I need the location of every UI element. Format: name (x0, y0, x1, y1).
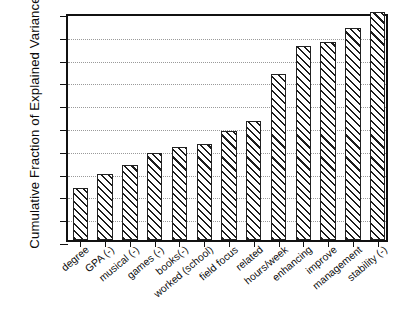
bar (221, 131, 236, 240)
bar-column (197, 12, 212, 240)
bar (197, 144, 212, 240)
x-axis-tick-labels: degreeGPA (-)musical (-)games (-)books(-… (66, 244, 388, 324)
bar (271, 74, 286, 240)
bar (370, 12, 385, 240)
y-axis-tick (60, 153, 68, 154)
bar-column (147, 12, 162, 240)
bar-column (271, 12, 286, 240)
plot-area: 0.00.10.20.30.40.50.60.70.80.91.0 (66, 14, 388, 242)
bar (97, 174, 112, 240)
bar-column (246, 12, 261, 240)
bar (296, 46, 311, 240)
bar (345, 28, 360, 240)
bar-series (68, 16, 386, 240)
y-axis-tick (60, 176, 68, 177)
y-axis-tick (60, 16, 68, 17)
bar (246, 121, 261, 240)
y-axis-tick (60, 221, 68, 222)
bar-column (320, 12, 335, 240)
y-axis-tick (60, 198, 68, 199)
y-axis-title: Cumulative Fraction of Explained Varianc… (27, 0, 42, 253)
bar-column (122, 12, 137, 240)
bar (122, 165, 137, 240)
bar-column (73, 12, 88, 240)
bar-column (296, 12, 311, 240)
y-axis-tick (60, 84, 68, 85)
bar (320, 42, 335, 240)
bar-chart-figure: Cumulative Fraction of Explained Varianc… (0, 0, 401, 326)
bar (172, 147, 187, 240)
bar-column (345, 12, 360, 240)
y-axis-tick (60, 62, 68, 63)
y-axis-tick (60, 130, 68, 131)
bar (147, 153, 162, 240)
bar-column (221, 12, 236, 240)
bar (73, 188, 88, 240)
bar-column (172, 12, 187, 240)
y-axis-tick (60, 39, 68, 40)
bar-column (370, 12, 385, 240)
y-axis-tick (60, 107, 68, 108)
bar-column (97, 12, 112, 240)
